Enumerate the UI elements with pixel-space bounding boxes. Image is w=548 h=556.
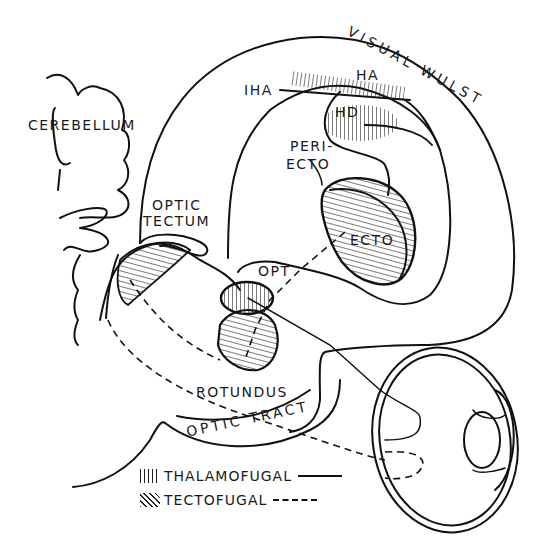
pathway-diagram: CEREBELLUM VISUAL WULST IHA HA HD PERI- … — [0, 0, 548, 556]
rotundus-region — [218, 310, 278, 370]
legend-label: TECTOFUGAL — [164, 492, 267, 508]
legend-item-tectofugal: TECTOFUGAL — [140, 492, 317, 508]
legend-item-thalamofugal: THALAMOFUGAL — [140, 468, 342, 484]
label-periecto-1: PERI- — [290, 139, 334, 154]
dashed-line-icon — [273, 499, 317, 501]
label-optic-tectum-1: OPTIC — [152, 198, 201, 213]
label-cerebellum: CEREBELLUM — [28, 118, 136, 133]
label-ha: HA — [356, 68, 379, 83]
eye — [358, 336, 532, 544]
legend-label: THALAMOFUGAL — [164, 468, 292, 484]
label-ecto: ECTO — [350, 233, 394, 248]
label-periecto-2: ECTO — [286, 157, 330, 172]
solid-line-icon — [298, 475, 342, 477]
optic-tectum-region — [118, 243, 190, 305]
hd-region — [322, 105, 398, 141]
diagonal-hatch-swatch-icon — [140, 493, 160, 507]
label-iha: IHA — [244, 83, 273, 98]
label-hd: HD — [335, 105, 359, 120]
label-opt: OPT — [258, 264, 291, 279]
iha-band — [290, 71, 406, 101]
label-optic-tectum-2: TECTUM — [143, 214, 210, 229]
cerebellum-outline — [47, 75, 129, 345]
label-rotundus: ROTUNDUS — [196, 385, 288, 400]
vertical-hatch-swatch-icon — [140, 469, 160, 483]
